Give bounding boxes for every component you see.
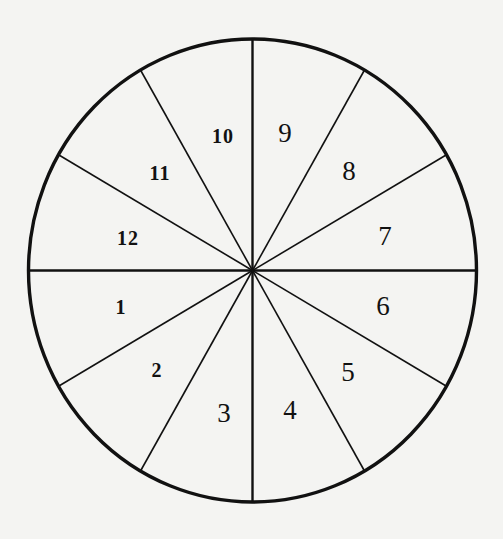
segment-label-9: 9 [278, 120, 292, 147]
segment-label-10: 10 [212, 126, 234, 146]
segment-label-6: 6 [376, 293, 390, 320]
segmented-circle [0, 0, 503, 539]
segment-label-7: 7 [378, 223, 392, 250]
segment-label-11: 11 [150, 163, 171, 183]
segment-label-1: 1 [116, 297, 127, 317]
segment-label-8: 8 [342, 158, 356, 185]
segment-label-4: 4 [283, 397, 297, 424]
divider-lines [29, 39, 477, 502]
segment-label-12: 12 [117, 228, 139, 248]
segment-label-5: 5 [341, 359, 355, 386]
segment-label-3: 3 [217, 400, 231, 427]
segment-label-2: 2 [152, 360, 163, 380]
